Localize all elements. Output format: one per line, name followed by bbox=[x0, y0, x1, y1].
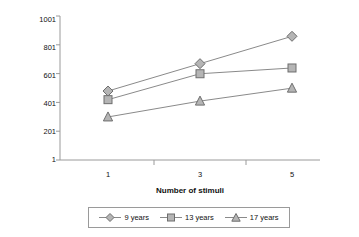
diamond-marker-icon bbox=[99, 212, 121, 223]
axis-lines bbox=[56, 16, 320, 165]
legend-label: 17 years bbox=[250, 213, 279, 222]
data-point-marker bbox=[287, 31, 297, 41]
triangle-marker-icon bbox=[225, 212, 247, 223]
data-point-marker bbox=[288, 64, 296, 72]
plot-area bbox=[0, 0, 359, 237]
chart-legend: 9 years 13 years 17 years bbox=[88, 207, 290, 228]
legend-item-17-years: 17 years bbox=[225, 212, 279, 223]
data-point-marker bbox=[287, 83, 296, 92]
chart-figure: Milliseconds 1001 801 601 401 201 1 1 3 … bbox=[0, 0, 359, 237]
square-marker-icon bbox=[160, 212, 182, 223]
data-point-marker bbox=[103, 86, 113, 96]
data-point-marker bbox=[196, 70, 204, 78]
data-series-layer bbox=[103, 31, 297, 121]
y-tick-marks bbox=[56, 16, 60, 160]
legend-item-9-years: 9 years bbox=[99, 212, 149, 223]
legend-item-13-years: 13 years bbox=[160, 212, 214, 223]
legend-label: 9 years bbox=[124, 213, 149, 222]
x-tick-marks bbox=[154, 160, 246, 165]
legend-label: 13 years bbox=[185, 213, 214, 222]
series-17-years bbox=[103, 83, 296, 121]
data-point-marker bbox=[195, 59, 205, 69]
series-9-years bbox=[103, 31, 297, 96]
data-point-marker bbox=[104, 96, 112, 104]
